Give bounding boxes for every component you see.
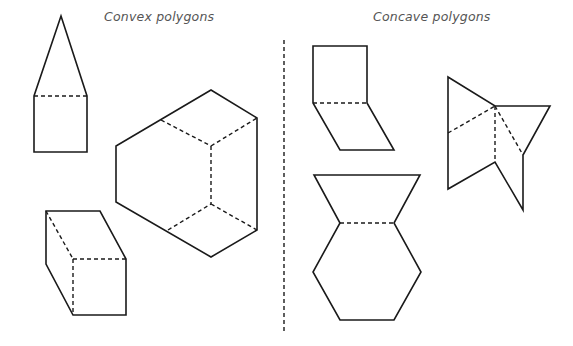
bowtie-star-outline	[448, 77, 550, 210]
dashed-fold-line	[168, 204, 211, 230]
dashed-fold-line	[46, 211, 73, 259]
bent-parallelograms-shape	[313, 46, 394, 150]
vase-outline	[313, 175, 421, 320]
dashed-fold-line	[448, 106, 495, 133]
dashed-fold-line	[211, 204, 257, 230]
large-hexagon-shape	[116, 90, 257, 257]
house-pentagon-outline	[34, 16, 87, 152]
bent-parallelograms-outline	[313, 46, 394, 150]
vase-shape	[313, 175, 421, 320]
polygon-diagram	[0, 0, 573, 346]
dashed-fold-line	[161, 120, 211, 146]
shapes-group	[34, 16, 550, 320]
dashed-fold-line	[495, 106, 523, 155]
bowtie-star-shape	[448, 77, 550, 210]
house-pentagon-shape	[34, 16, 87, 152]
prism-hexagon-shape	[46, 211, 126, 315]
large-hexagon-outline	[116, 90, 257, 257]
dashed-fold-line	[211, 118, 257, 146]
prism-hexagon-outline	[46, 211, 126, 315]
